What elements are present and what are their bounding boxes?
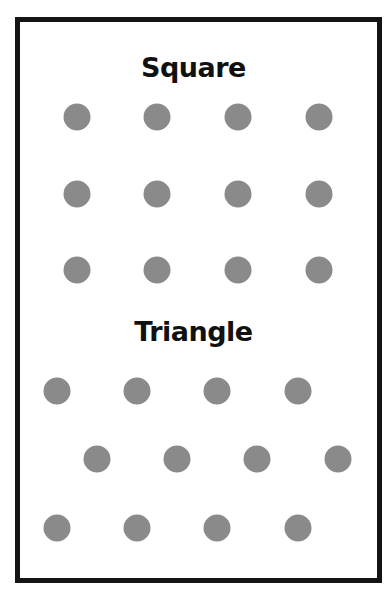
dot (64, 104, 91, 131)
dot (64, 181, 91, 208)
dot (144, 257, 171, 284)
dot (225, 257, 252, 284)
dot (144, 104, 171, 131)
dot (204, 378, 231, 405)
dot (225, 181, 252, 208)
dot (306, 104, 333, 131)
dot (124, 515, 151, 542)
square-arrangement-title: Square (0, 54, 387, 81)
dot (84, 446, 111, 473)
dot (306, 257, 333, 284)
dot (285, 378, 312, 405)
dot (225, 104, 252, 131)
dot (164, 446, 191, 473)
dot (204, 515, 231, 542)
dot (325, 446, 352, 473)
dot (64, 257, 91, 284)
dot (44, 378, 71, 405)
dot (285, 515, 312, 542)
triangle-arrangement-title: Triangle (0, 318, 387, 345)
diagram-frame (15, 17, 382, 583)
dot (244, 446, 271, 473)
dot (306, 181, 333, 208)
dot (144, 181, 171, 208)
dot (44, 515, 71, 542)
dot (124, 378, 151, 405)
